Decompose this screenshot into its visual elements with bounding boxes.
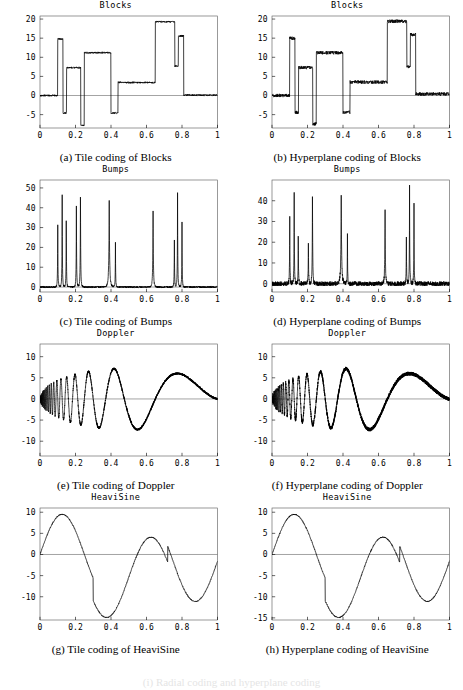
caption-f: (f) Hyperplane coding of Doppler xyxy=(232,478,463,492)
y-tick-label: 10 xyxy=(257,53,267,62)
y-tick-label: 5 xyxy=(31,374,36,383)
y-tick-label: 10 xyxy=(257,508,267,517)
x-tick-label: 0.4 xyxy=(104,295,119,304)
y-tick-label: 5 xyxy=(262,374,267,383)
plot-frame xyxy=(40,508,218,620)
plot-frame xyxy=(40,344,218,456)
signal-curve-a xyxy=(40,21,218,126)
x-tick-label: 0.2 xyxy=(68,295,83,304)
plot-area-e: 1050-5-1000.20.40.60.81 xyxy=(0,339,232,478)
y-tick-label: 5 xyxy=(262,72,267,81)
y-tick-label: 0 xyxy=(31,550,36,559)
y-tick-label: 30 xyxy=(26,223,36,232)
y-tick-label: -10 xyxy=(21,437,36,446)
plot-area-c: 5040302010000.20.40.60.81 xyxy=(0,175,232,314)
signal-curve-b xyxy=(272,20,450,126)
figure-root: Blocks 20151050-500.20.40.60.81 (a) Tile… xyxy=(0,0,463,690)
x-tick-label: 0.4 xyxy=(104,623,119,632)
x-tick-label: 0.6 xyxy=(139,295,154,304)
plot-title-f: Doppler xyxy=(232,328,463,339)
x-tick-label: 1 xyxy=(447,623,452,632)
x-tick-label: 0.2 xyxy=(68,131,83,140)
y-tick-label: 30 xyxy=(257,217,267,226)
x-tick-label: 0.6 xyxy=(371,131,386,140)
x-tick-label: 0.6 xyxy=(139,459,154,468)
caption-d: (d) Hyperplane coding of Bumps xyxy=(232,314,463,328)
x-tick-label: 1 xyxy=(215,295,220,304)
y-tick-label: -10 xyxy=(21,593,36,602)
y-tick-label: 20 xyxy=(26,15,36,24)
plot-area-g: 1050-5-1000.20.40.60.81 xyxy=(0,503,232,642)
y-tick-label: 0 xyxy=(31,395,36,404)
plot-title-c: Bumps xyxy=(0,164,232,175)
panel-h: HeaviSine 1050-5-10-1500.20.40.60.81 (h)… xyxy=(232,492,463,656)
plot-frame xyxy=(272,344,450,456)
y-tick-label: 20 xyxy=(257,238,267,247)
y-tick-label: 5 xyxy=(31,72,36,81)
y-tick-label: 40 xyxy=(257,197,267,206)
panel-row-2: Bumps 5040302010000.20.40.60.81 (c) Tile… xyxy=(0,164,463,328)
y-tick-label: -10 xyxy=(253,593,268,602)
x-tick-label: 0 xyxy=(38,623,43,632)
x-tick-label: 0.2 xyxy=(300,131,315,140)
plot-area-a: 20151050-500.20.40.60.81 xyxy=(0,11,232,150)
y-tick-label: 10 xyxy=(257,353,267,362)
x-tick-label: 0 xyxy=(38,131,43,140)
plot-svg-f: 1050-5-1000.20.40.60.81 xyxy=(232,339,463,478)
plot-title-a: Blocks xyxy=(0,0,232,11)
caption-b: (b) Hyperplane coding of Blocks xyxy=(232,150,463,164)
panel-row-4: HeaviSine 1050-5-1000.20.40.60.81 (g) Ti… xyxy=(0,492,463,656)
panel-c: Bumps 5040302010000.20.40.60.81 (c) Tile… xyxy=(0,164,232,328)
plot-frame xyxy=(272,508,450,620)
y-tick-label: 10 xyxy=(257,259,267,268)
signal-curve-c xyxy=(40,193,218,288)
x-tick-label: 0.2 xyxy=(68,459,83,468)
x-tick-label: 0.4 xyxy=(335,295,350,304)
y-tick-label: 10 xyxy=(26,508,36,517)
panel-row-1: Blocks 20151050-500.20.40.60.81 (a) Tile… xyxy=(0,0,463,164)
panel-d: Bumps 40302010000.20.40.60.81 (d) Hyperp… xyxy=(232,164,463,328)
panel-e: Doppler 1050-5-1000.20.40.60.81 (e) Tile… xyxy=(0,328,232,492)
x-tick-label: 0.8 xyxy=(406,459,421,468)
y-tick-label: 0 xyxy=(262,550,267,559)
y-tick-label: -10 xyxy=(253,437,268,446)
plot-area-h: 1050-5-10-1500.20.40.60.81 xyxy=(232,503,463,642)
y-tick-label: -5 xyxy=(257,111,267,120)
y-tick-label: 0 xyxy=(31,283,36,292)
x-tick-label: 1 xyxy=(215,131,220,140)
plot-title-b: Blocks xyxy=(232,0,463,11)
x-tick-label: 1 xyxy=(215,623,220,632)
x-tick-label: 0.6 xyxy=(139,131,154,140)
plot-svg-a: 20151050-500.20.40.60.81 xyxy=(0,11,232,150)
x-tick-label: 0.4 xyxy=(335,623,350,632)
panel-a: Blocks 20151050-500.20.40.60.81 (a) Tile… xyxy=(0,0,232,164)
y-tick-label: 20 xyxy=(26,243,36,252)
y-tick-label: -5 xyxy=(26,111,36,120)
plot-title-e: Doppler xyxy=(0,328,232,339)
plot-title-g: HeaviSine xyxy=(0,492,232,503)
y-tick-label: 50 xyxy=(26,184,36,193)
caption-a: (a) Tile coding of Blocks xyxy=(0,150,232,164)
x-tick-label: 0.2 xyxy=(300,295,315,304)
y-tick-label: 15 xyxy=(257,34,267,43)
plot-svg-c: 5040302010000.20.40.60.81 xyxy=(0,175,232,314)
y-tick-label: 10 xyxy=(26,53,36,62)
plot-svg-e: 1050-5-1000.20.40.60.81 xyxy=(0,339,232,478)
plot-svg-d: 40302010000.20.40.60.81 xyxy=(232,175,463,314)
y-tick-label: 10 xyxy=(26,263,36,272)
y-tick-label: 5 xyxy=(31,529,36,538)
plot-svg-h: 1050-5-10-1500.20.40.60.81 xyxy=(232,503,463,642)
x-tick-label: 1 xyxy=(215,459,220,468)
y-tick-label: 0 xyxy=(262,91,267,100)
y-tick-label: -5 xyxy=(26,416,36,425)
plot-title-h: HeaviSine xyxy=(232,492,463,503)
y-tick-label: -15 xyxy=(253,614,268,623)
x-tick-label: 1 xyxy=(447,131,452,140)
caption-g: (g) Tile coding of HeaviSine xyxy=(0,642,232,656)
signal-curve-h xyxy=(272,514,450,618)
x-tick-label: 0.6 xyxy=(139,623,154,632)
caption-h: (h) Hyperplane coding of HeaviSine xyxy=(232,642,463,656)
x-tick-label: 0.4 xyxy=(335,459,350,468)
x-tick-label: 0.8 xyxy=(406,623,421,632)
caption-c: (c) Tile coding of Bumps xyxy=(0,314,232,328)
